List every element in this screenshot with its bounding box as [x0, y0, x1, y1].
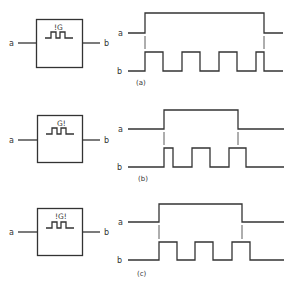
signal-b-waveform: [128, 148, 284, 167]
signal-a-waveform: [128, 110, 284, 129]
gated-oscillator-diagram: a b !G a b (a) a b G! a b (b) a b !G! a …: [0, 0, 291, 285]
signal-a-label: a: [118, 218, 123, 227]
signal-a-label: a: [118, 125, 123, 134]
output-label-b: b: [104, 136, 109, 145]
pulse-icon: [45, 32, 73, 38]
gate-label-b: G!: [57, 119, 66, 128]
input-label-a: a: [9, 39, 14, 48]
signal-b-label: b: [117, 163, 122, 172]
caption-b: (b): [138, 175, 148, 183]
signal-a-label: a: [118, 29, 123, 38]
panel-a: [18, 13, 283, 71]
output-label-a: b: [104, 39, 109, 48]
signal-b-label: b: [117, 67, 122, 76]
pulse-icon: [46, 128, 74, 134]
signal-b-waveform: [128, 242, 284, 260]
gate-label-a: !G: [54, 23, 63, 32]
signal-a-waveform: [128, 13, 283, 33]
pulse-icon: [46, 222, 74, 228]
caption-a: (a): [136, 79, 146, 87]
signal-b-waveform: [128, 52, 283, 71]
input-label-c: a: [9, 228, 14, 237]
input-label-b: a: [9, 136, 14, 145]
signal-b-label: b: [117, 256, 122, 265]
signal-a-waveform: [128, 204, 284, 222]
output-label-c: b: [104, 228, 109, 237]
caption-c: (c): [137, 270, 147, 278]
gate-label-c: !G!: [55, 212, 67, 221]
